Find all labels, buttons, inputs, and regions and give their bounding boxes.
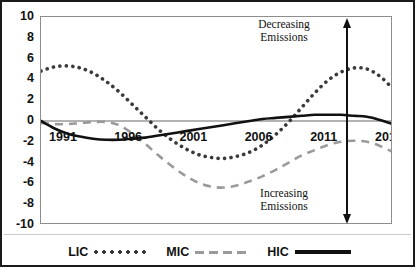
x-axis-tick: 2001 [179,131,207,143]
plot-area: 199119962001200620112016 [40,16,392,224]
x-axis-tick: 2016 [375,131,392,143]
x-axis-tick: 2006 [245,131,273,143]
series-line-mic [41,122,392,188]
legend-label-mic: MIC [166,245,189,259]
y-axis-tick: 8 [27,31,34,43]
legend-item-mic[interactable]: MIC [166,245,251,259]
legend-swatch-dotted-icon [94,250,150,254]
y-axis-tick-labels: 1086420-2-4-6-8-10 [2,2,38,267]
chart-figure: 1086420-2-4-6-8-10 199119962001200620112… [0,0,415,267]
series-line-lic [41,66,392,159]
legend-swatch-dashed-icon [195,251,251,254]
annotation-increasing-emissions: Increasing Emissions [246,187,322,213]
legend-divider [4,234,411,235]
data-series-group [41,66,392,188]
annotation-decreasing-emissions: Decreasing Emissions [246,18,322,44]
legend-item-lic[interactable]: LIC [68,245,150,259]
chart-legend: LIC MIC HIC [2,245,415,259]
y-axis-tick: 2 [27,93,34,105]
y-axis-tick: -6 [23,176,34,188]
x-axis-tick: 1996 [114,131,142,143]
y-axis-tick: 10 [20,10,34,22]
y-axis-tick: 0 [27,114,34,126]
y-axis-tick: 4 [27,72,34,84]
y-axis-tick: -10 [16,218,34,230]
legend-label-hic: HIC [267,245,289,259]
x-axis-tick: 1991 [49,131,77,143]
series-line-hic [41,115,392,140]
x-axis-tick: 2011 [310,131,337,143]
y-axis-tick: -2 [23,135,34,147]
series-canvas [41,17,392,224]
legend-swatch-solid-icon [295,250,351,254]
y-axis-tick: -4 [23,156,34,168]
y-axis-tick: -8 [23,197,34,209]
legend-item-hic[interactable]: HIC [267,245,351,259]
y-axis-tick: 6 [27,52,34,64]
legend-label-lic: LIC [68,245,88,259]
